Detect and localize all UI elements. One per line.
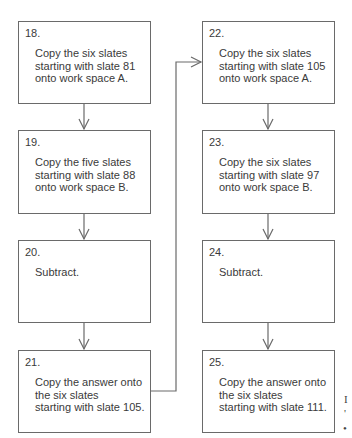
- step-number: 23.: [209, 136, 224, 148]
- cut-off-text-2: ': [344, 407, 346, 419]
- step-box-25: 25. Copy the answer onto the six slates …: [202, 350, 335, 433]
- step-number: 24.: [209, 246, 224, 258]
- step-text: Copy the six slates starting with slate …: [219, 156, 330, 194]
- step-text: Copy the six slates starting with slate …: [219, 47, 330, 85]
- step-box-22: 22. Copy the six slates starting with sl…: [202, 21, 335, 104]
- flowchart-diagram: 18. Copy the six slates starting with sl…: [0, 0, 352, 438]
- step-text: Copy the five slates starting with slate…: [35, 156, 146, 194]
- step-number: 22.: [209, 27, 224, 39]
- step-number: 21.: [25, 356, 40, 368]
- step-box-24: 24. Subtract.: [202, 240, 335, 323]
- step-text: Subtract.: [35, 266, 146, 279]
- step-box-19: 19. Copy the five slates starting with s…: [18, 130, 151, 214]
- cut-off-text-1: I: [344, 393, 348, 405]
- step-box-23: 23. Copy the six slates starting with sl…: [202, 130, 335, 214]
- cut-off-text-3: •: [343, 422, 347, 434]
- step-box-20: 20. Subtract.: [18, 240, 151, 323]
- step-text: Copy the answer onto the six slates star…: [219, 376, 330, 414]
- step-text: Copy the six slates starting with slate …: [35, 47, 146, 85]
- step-number: 18.: [25, 27, 40, 39]
- step-box-21: 21. Copy the answer onto the six slates …: [18, 350, 151, 433]
- step-text: Copy the answer onto the six slates star…: [35, 376, 146, 414]
- step-text: Subtract.: [219, 266, 330, 279]
- step-number: 20.: [25, 246, 40, 258]
- step-number: 25.: [209, 356, 224, 368]
- step-number: 19.: [25, 136, 40, 148]
- step-box-18: 18. Copy the six slates starting with sl…: [18, 21, 151, 104]
